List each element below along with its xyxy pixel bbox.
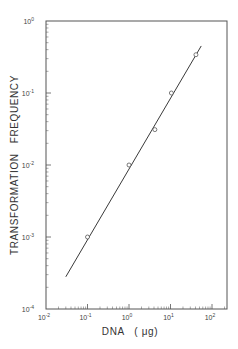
data-point <box>127 163 131 167</box>
x-axis-title: DNA ( μg) <box>102 326 158 337</box>
x-tick-label: 10-1 <box>79 312 91 321</box>
chart: 10-210-1100101102 10010-110-210-310-4 DN… <box>0 0 238 349</box>
y-tick-label: 10-1 <box>22 88 34 97</box>
y-tick-label: 10-4 <box>22 304 34 313</box>
x-tick-label: 10-2 <box>38 312 50 321</box>
y-tick-label: 10-2 <box>22 160 34 169</box>
data-point <box>169 91 173 95</box>
data-point <box>194 53 198 57</box>
fit-line <box>66 46 201 277</box>
x-tick-labels: 10-210-1100101102 <box>38 312 216 321</box>
y-tick-label: 100 <box>23 16 34 25</box>
data-point <box>153 128 157 132</box>
data-point <box>86 235 90 239</box>
x-tick-label: 100 <box>122 312 133 321</box>
y-axis-title: TRANSFORMATION FREQUENCY <box>9 75 20 255</box>
x-tick-label: 102 <box>205 312 216 321</box>
x-tick-label: 101 <box>163 312 174 321</box>
axis-ticks <box>46 24 224 309</box>
plot-frame <box>46 21 227 309</box>
y-tick-label: 10-3 <box>22 232 34 241</box>
y-tick-labels: 10010-110-210-310-4 <box>22 16 34 313</box>
